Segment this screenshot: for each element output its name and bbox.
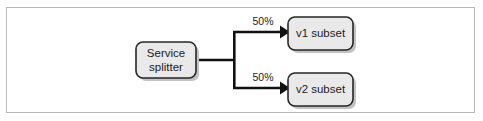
- node-v2-subset[interactable]: v2 subset: [288, 73, 356, 109]
- node-service-splitter-label-line1: Service: [147, 47, 185, 59]
- node-service-splitter[interactable]: Service splitter: [136, 42, 199, 81]
- node-service-splitter-label-line2: splitter: [149, 61, 183, 73]
- node-v2-subset-label: v2 subset: [296, 83, 346, 95]
- traffic-split-diagram: Service splitter v1 subset v2 subset 50%…: [0, 0, 483, 121]
- diagram-canvas: Service splitter v1 subset v2 subset 50%…: [0, 0, 483, 121]
- connector-group: [196, 26, 290, 95]
- edge-label-v2-percent: 50%: [252, 71, 273, 83]
- edge-label-v1-percent: 50%: [252, 15, 273, 27]
- node-v1-subset-label: v1 subset: [296, 27, 346, 39]
- node-v1-subset[interactable]: v1 subset: [288, 17, 356, 53]
